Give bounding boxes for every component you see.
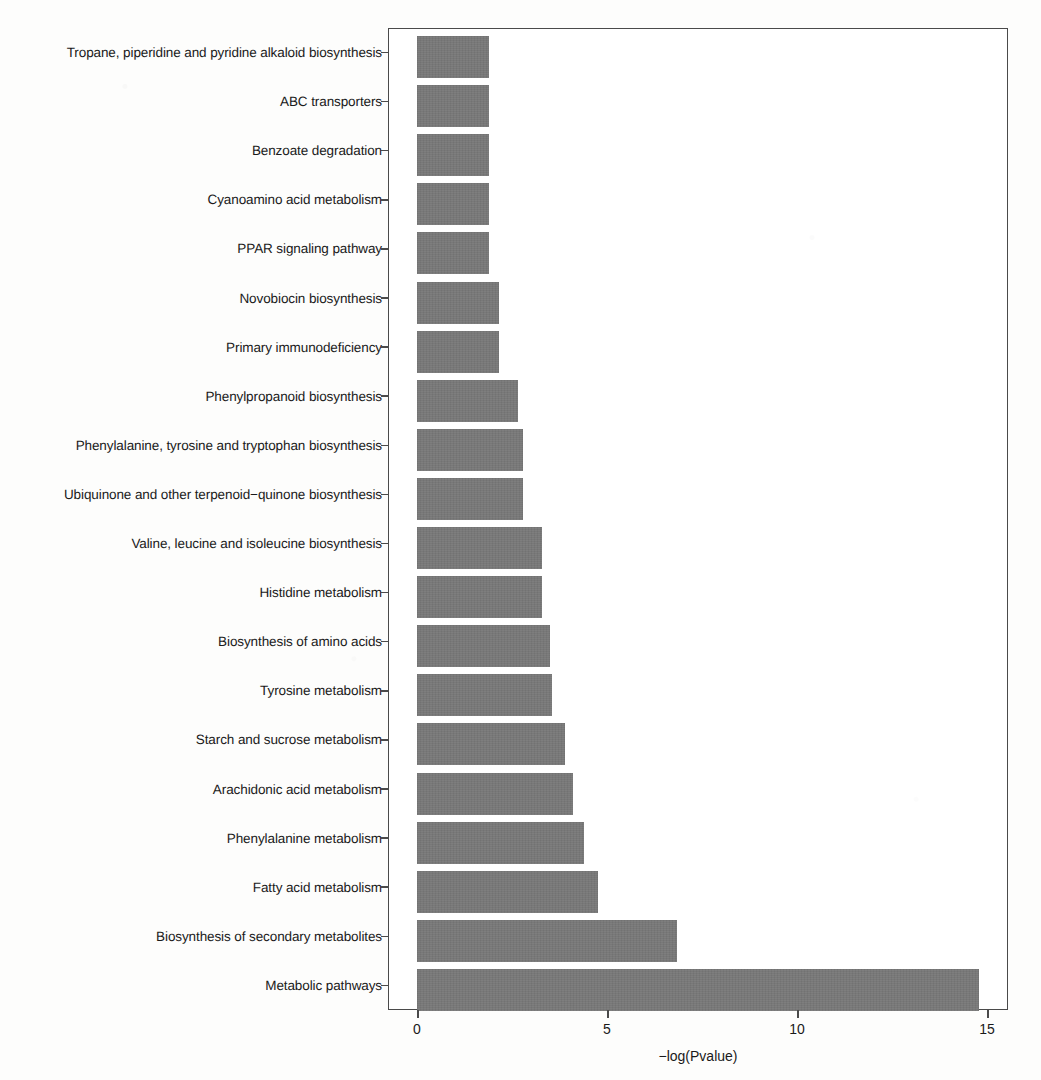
bar	[417, 625, 550, 667]
bar-row	[388, 175, 1008, 224]
y-axis-tick-group: Novobiocin biosynthesis	[0, 274, 388, 323]
y-axis-tick-group: Ubiquinone and other terpenoid−quinone b…	[0, 470, 388, 519]
y-axis-tick-mark	[381, 788, 388, 790]
y-axis-tick-mark	[381, 52, 388, 54]
bar	[417, 380, 518, 422]
bar-row	[388, 666, 1008, 715]
y-axis-tick-mark	[381, 248, 388, 250]
bar-row	[388, 372, 1008, 421]
y-axis-tick-group: PPAR signaling pathway	[0, 224, 388, 273]
y-axis-tick-label: Novobiocin biosynthesis	[239, 291, 388, 306]
y-axis-tick-group: Cyanoamino acid metabolism	[0, 175, 388, 224]
y-axis-tick-group: Tropane, piperidine and pyridine alkaloi…	[0, 28, 388, 77]
bar-row	[388, 617, 1008, 666]
bar-row	[388, 224, 1008, 273]
x-axis-tick-mark	[987, 1010, 989, 1018]
bar-row	[388, 912, 1008, 961]
y-axis-tick-group: Biosynthesis of secondary metabolites	[0, 912, 388, 961]
figure-canvas: Tropane, piperidine and pyridine alkaloi…	[0, 0, 1041, 1080]
bar	[417, 134, 489, 176]
y-axis-tick-label: Arachidonic acid metabolism	[213, 782, 388, 797]
y-axis-tick-mark	[381, 395, 388, 397]
y-axis-tick-label: Fatty acid metabolism	[253, 880, 388, 895]
y-axis-tick-mark	[381, 690, 388, 692]
bar-row	[388, 470, 1008, 519]
y-axis-tick-group: Tyrosine metabolism	[0, 666, 388, 715]
bar-row	[388, 961, 1008, 1010]
y-axis-tick-label: Biosynthesis of amino acids	[218, 634, 388, 649]
bar	[417, 527, 542, 569]
bar-row	[388, 814, 1008, 863]
y-axis-tick-mark	[381, 739, 388, 741]
bar	[417, 282, 499, 324]
x-axis: −log(Pvalue) 051015	[388, 1010, 1008, 1080]
bar	[417, 478, 523, 520]
y-axis-tick-label: Tropane, piperidine and pyridine alkaloi…	[67, 45, 388, 60]
bar	[417, 429, 523, 471]
y-axis-tick-label: Primary immunodeficiency	[226, 340, 388, 355]
y-axis-tick-mark	[381, 985, 388, 987]
y-axis-tick-mark	[381, 592, 388, 594]
bar	[417, 36, 489, 78]
y-axis-tick-group: Fatty acid metabolism	[0, 863, 388, 912]
bar-row	[388, 274, 1008, 323]
y-axis-tick-group: Starch and sucrose metabolism	[0, 715, 388, 764]
bar-row	[388, 126, 1008, 175]
bar-row	[388, 323, 1008, 372]
bar	[417, 822, 584, 864]
bar-row	[388, 519, 1008, 568]
bar	[417, 183, 489, 225]
y-axis-tick-mark	[381, 297, 388, 299]
bar	[417, 576, 542, 618]
bar	[417, 674, 552, 716]
y-axis-tick-label: Histidine metabolism	[259, 585, 388, 600]
bar	[417, 723, 565, 765]
bar-row	[388, 863, 1008, 912]
y-axis-tick-group: Valine, leucine and isoleucine biosynthe…	[0, 519, 388, 568]
y-axis-tick-mark	[381, 494, 388, 496]
y-axis-tick-label: Benzoate degradation	[252, 143, 388, 158]
y-axis-tick-label: Metabolic pathways	[265, 978, 388, 993]
y-axis-tick-label: Phenylpropanoid biosynthesis	[205, 389, 388, 404]
bar	[417, 232, 489, 274]
bar-row	[388, 28, 1008, 77]
y-axis-tick-label: Ubiquinone and other terpenoid−quinone b…	[64, 487, 388, 502]
bar	[417, 331, 499, 373]
y-axis-tick-mark	[381, 199, 388, 201]
y-axis-tick-label: Phenylalanine metabolism	[227, 831, 388, 846]
y-axis-tick-mark	[381, 150, 388, 152]
y-axis-tick-mark	[381, 936, 388, 938]
y-axis-tick-mark	[381, 837, 388, 839]
y-axis-tick-group: Primary immunodeficiency	[0, 323, 388, 372]
x-axis-tick-label: 15	[979, 1021, 995, 1037]
bar	[417, 920, 677, 962]
bars-layer	[388, 28, 1008, 1010]
y-axis-tick-label: Cyanoamino acid metabolism	[208, 192, 388, 207]
x-axis-tick-label: 0	[413, 1021, 421, 1037]
y-axis-tick-group: Phenylalanine metabolism	[0, 814, 388, 863]
y-axis-tick-group: Histidine metabolism	[0, 568, 388, 617]
y-axis-tick-group: Phenylalanine, tyrosine and tryptophan b…	[0, 421, 388, 470]
x-axis-title: −log(Pvalue)	[388, 1048, 1008, 1064]
y-axis-tick-group: ABC transporters	[0, 77, 388, 126]
y-axis-tick-group: Metabolic pathways	[0, 961, 388, 1010]
y-axis-tick-mark	[381, 641, 388, 643]
bar-row	[388, 77, 1008, 126]
y-axis-tick-mark	[381, 886, 388, 888]
bar	[417, 871, 598, 913]
x-axis-tick-mark	[417, 1010, 419, 1018]
bar-row	[388, 715, 1008, 764]
bar	[417, 773, 573, 815]
bar-row	[388, 421, 1008, 470]
y-axis-tick-label: Tyrosine metabolism	[260, 683, 388, 698]
y-axis-tick-label: PPAR signaling pathway	[237, 241, 388, 256]
y-axis-tick-group: Phenylpropanoid biosynthesis	[0, 372, 388, 421]
bar	[417, 85, 489, 127]
x-axis-tick-mark	[797, 1010, 799, 1018]
bar-row	[388, 765, 1008, 814]
x-axis-tick-label: 10	[789, 1021, 805, 1037]
y-axis-tick-label: Starch and sucrose metabolism	[196, 732, 388, 747]
bar-row	[388, 568, 1008, 617]
y-axis-tick-group: Benzoate degradation	[0, 126, 388, 175]
y-axis-labels: Tropane, piperidine and pyridine alkaloi…	[0, 28, 388, 1010]
